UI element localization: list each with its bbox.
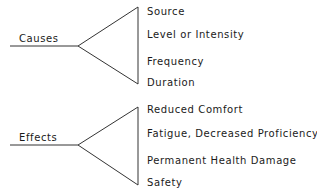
effects-lower-branch bbox=[78, 145, 138, 185]
effect-item-fatigue: Fatigue, Decreased Proficiency bbox=[147, 128, 317, 140]
causes-label: Causes bbox=[19, 33, 59, 45]
cause-item-level: Level or Intensity bbox=[147, 29, 244, 41]
effect-item-safety: Safety bbox=[147, 177, 183, 189]
causes-upper-branch bbox=[78, 7, 138, 46]
effect-item-comfort: Reduced Comfort bbox=[147, 104, 243, 116]
cause-item-frequency: Frequency bbox=[147, 56, 204, 68]
effects-label: Effects bbox=[19, 132, 57, 144]
effect-item-health: Permanent Health Damage bbox=[147, 155, 297, 167]
causes-lower-branch bbox=[78, 46, 138, 84]
cause-item-duration: Duration bbox=[147, 77, 195, 89]
effects-upper-branch bbox=[78, 107, 138, 145]
cause-item-source: Source bbox=[147, 6, 185, 18]
